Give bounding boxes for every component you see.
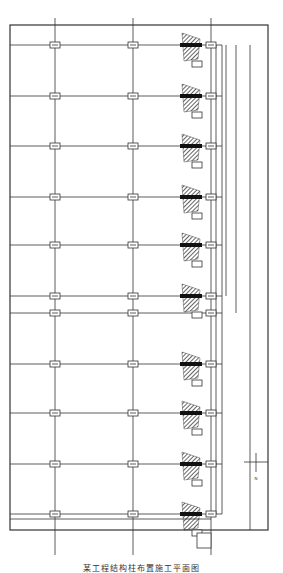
detail-tag (192, 480, 202, 486)
detail-tag (192, 429, 202, 435)
detail-tag (192, 312, 202, 318)
solid-beam-element (180, 144, 202, 148)
solid-beam-element (180, 512, 202, 516)
detail-tag (192, 380, 202, 386)
detail-tag (192, 61, 202, 67)
solid-beam-element (180, 243, 202, 247)
detail-tag (192, 213, 202, 219)
solid-beam-element (180, 294, 202, 298)
detail-tag (192, 162, 202, 168)
solid-beam-element (180, 43, 202, 47)
outer-border (10, 25, 268, 530)
solid-beam-element (180, 94, 202, 98)
north-marker-label: N (255, 476, 258, 481)
bottom-detail-box (197, 533, 211, 548)
detail-tag (192, 112, 202, 118)
detail-tag (192, 261, 202, 267)
solid-beam-element (180, 362, 202, 366)
solid-beam-element (180, 195, 202, 199)
solid-beam-element (180, 411, 202, 415)
drawing-caption: 某工程结构柱布置施工平面图 (0, 562, 283, 573)
solid-beam-element (180, 462, 202, 466)
